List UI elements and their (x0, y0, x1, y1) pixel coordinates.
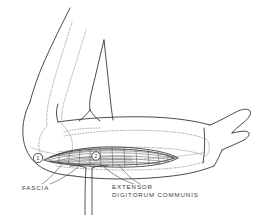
olecranon-elbow-outline (23, 102, 74, 176)
retractor-handle-left (85, 168, 86, 215)
upper-arm-posterior-outline (30, 8, 70, 102)
hand-volar-outline (214, 150, 222, 166)
label-fascia: FASCIA (22, 184, 49, 192)
forearm-upper-outline (58, 117, 210, 125)
radial-head-outline (64, 128, 100, 132)
biceps-tendon-medial (79, 110, 90, 121)
label-extensor-line-1: EXTENSOR (112, 183, 153, 190)
wrist-crease (203, 128, 205, 163)
ulna-distal-end (206, 139, 209, 156)
ulna-bone-upper (64, 130, 206, 139)
humerus-bone-anterior (62, 30, 86, 124)
upper-arm-anterior-outline (90, 40, 104, 110)
label-extensor-digitorum-communis: EXTENSOR DIGITORUM COMMUNIS (112, 183, 199, 198)
marker-2: 2 (92, 152, 100, 160)
biceps-tendon-outline (90, 110, 100, 121)
leader-line-fascia-2 (50, 167, 78, 184)
biceps-muscle-edge (104, 40, 113, 120)
arm-forearm-junction (57, 104, 59, 122)
marker-2-label: 2 (95, 153, 98, 159)
marker-1-label: 1 (37, 155, 40, 161)
thumb-outline (222, 131, 249, 150)
humerus-bone-shaft (47, 22, 72, 126)
label-extensor-line-2: DIGITORUM COMMUNIS (112, 191, 199, 199)
forearm-lower-outline (74, 166, 214, 179)
hand-dorsal-outline (210, 109, 251, 133)
marker-1: 1 (33, 153, 42, 162)
anatomical-figure: 1 2 FASCIA EXTENSOR DIGITORUM COMMUNIS (0, 0, 264, 215)
